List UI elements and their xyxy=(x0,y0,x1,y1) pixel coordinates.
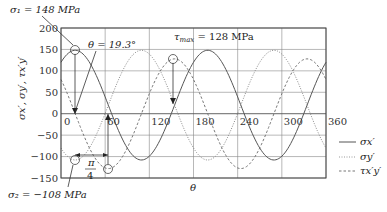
x-tick-label: 120 xyxy=(151,116,170,127)
legend-label-tau: τx′y′ xyxy=(360,165,382,176)
y-tick-label: −50 xyxy=(37,130,58,141)
tau-max-label: τmax = 128 MPa xyxy=(174,31,254,44)
x-tick-label: 180 xyxy=(196,116,215,127)
stress-transformation-chart: 060120180240300360200150100500−50−100−15… xyxy=(0,0,387,212)
x-tick-label: 0 xyxy=(64,116,70,127)
y-tick-label: −150 xyxy=(31,173,58,184)
grid xyxy=(61,28,326,178)
y-tick-label: 100 xyxy=(39,65,58,76)
y-axis-label: σx′, σy′, τx′y′ xyxy=(16,56,27,120)
theta-p-leader xyxy=(75,51,96,112)
sigma2-leader xyxy=(68,165,73,187)
x-axis-label: θ xyxy=(190,182,196,193)
y-tick-label: −100 xyxy=(31,151,58,162)
x-tick-label: 240 xyxy=(240,116,259,127)
x-tick-label: 360 xyxy=(328,116,347,127)
sigma1-label: σ₁ = 148 MPa xyxy=(10,4,80,15)
sigma2-label: σ₂ = −108 MPa xyxy=(8,189,87,200)
y-tick-label: 150 xyxy=(39,44,58,55)
pi-label: π xyxy=(87,157,95,168)
legend-label-sigma-y: σy′ xyxy=(360,151,375,162)
four-label: 4 xyxy=(87,170,93,181)
legend-label-sigma-x: σx′ xyxy=(360,136,375,147)
y-tick-label: 0 xyxy=(52,108,58,119)
x-tick-label: 300 xyxy=(284,116,303,127)
tau-min-marker xyxy=(104,165,113,174)
y-tick-label: 50 xyxy=(45,87,58,98)
theta-p-label: θ = 19.3° xyxy=(88,39,136,50)
legend: σx′ σy′ τx′y′ xyxy=(339,136,382,176)
